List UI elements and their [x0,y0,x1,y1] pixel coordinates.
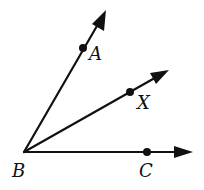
point-a [79,44,87,52]
ray-bc [24,146,193,158]
ray-ba [24,10,106,152]
label-c: C [139,160,153,181]
arrow-head-icon [174,146,193,158]
arrow-head-icon [150,70,169,84]
arrow-head-icon [92,10,106,31]
label-b: B [11,160,25,181]
label-x: X [135,92,151,113]
ray-bx-line [24,75,160,152]
label-a: A [87,43,102,64]
angle-diagram: A X B C [0,0,204,190]
point-x [126,88,134,96]
point-c [143,148,151,156]
ray-ba-line [24,19,101,152]
